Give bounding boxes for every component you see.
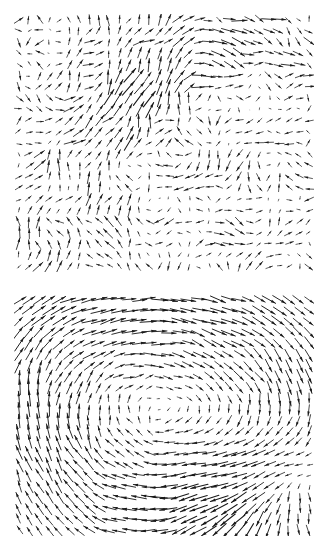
vector-arrow-head [70,107,75,110]
vector-arrow-head [210,365,215,368]
vector-arrow-head [278,76,282,79]
vector-arrow-head [251,464,256,467]
vector-arrow-head [180,355,185,358]
vector-arrow-head [40,131,43,133]
vector-arrow-head [49,381,52,386]
vector-arrow-head [119,374,124,377]
vector-arrow-head [48,150,50,154]
vector-arrow-head [90,40,95,42]
vector-arrow-head [182,463,187,466]
vector-arrow-head [304,177,308,179]
vector-arrow-head [29,206,32,210]
vector-arrow-head [264,485,269,489]
vector-arrow-head [149,407,150,409]
vector-arrow-head [277,498,280,502]
vector-arrow-head [284,453,288,456]
vector-arrow-head [250,311,255,314]
vector-arrow-head [98,27,101,31]
vector-arrow-head [26,515,29,519]
vector-arrow-head [306,442,309,446]
vector-arrow-head [278,531,281,536]
vector-arrow-head [259,62,263,64]
vector-arrow-head [209,131,211,134]
vector-arrow-head [199,255,202,257]
vector-arrow-head [184,442,188,444]
vector-arrow-head [249,299,254,302]
vector-arrow-head [299,232,302,234]
vector-arrow-head [288,31,290,35]
vector-arrow-head [239,199,241,200]
vector-arrow-head [98,63,102,66]
vector-arrow-head [155,220,159,223]
vector-arrow-head [169,58,172,63]
vector-arrow-head [221,499,226,503]
vector-arrow-head [196,187,200,189]
vector-arrow-head [129,91,133,96]
vector-arrow-head [56,491,60,496]
vector-arrow-head [18,208,19,210]
vector-arrow-head [16,504,19,509]
vector-arrow-head [133,463,138,466]
vector-arrow-head [205,430,209,433]
vector-arrow-head [148,14,150,18]
vector-arrow-head [279,368,282,373]
vector-arrow-head [211,509,216,513]
vector-arrow-head [180,508,185,511]
vector-arrow-head [151,486,156,489]
vector-arrow-head [130,363,134,365]
vector-arrow-head [241,42,246,46]
vector-arrow-head [93,482,98,486]
vector-arrow-head [240,243,244,245]
vector-arrow-head [258,389,261,394]
vector-arrow-head [46,436,49,441]
vector-arrow-head [159,48,162,53]
vector-arrow-head [19,176,22,178]
vector-arrow-head [220,344,225,347]
vector-arrow-head [26,41,29,45]
vector-arrow-head [239,86,243,88]
vector-arrow-head [149,142,152,144]
vector-arrow-head [194,431,198,434]
vector-arrow-head [79,351,84,355]
vector-arrow-head [288,409,290,414]
vector-arrow-head [179,498,185,501]
vector-arrow-head [298,84,302,87]
vector-arrow-head [79,97,83,100]
vector-arrow-head [184,430,188,432]
vector-arrow-head [145,451,150,454]
vector-arrow-head [190,520,195,523]
vector-arrow-head [86,265,89,267]
vector-arrow-head [62,316,67,320]
vector-arrow-head [88,194,91,199]
vector-arrow-head [269,367,272,372]
vector-arrow-head [216,121,219,125]
vector-arrow-head [211,322,216,325]
vector-arrow-head [200,364,205,367]
vector-arrow-head [61,296,66,300]
vector-arrow-head [128,60,131,65]
vector-arrow-head [299,209,301,210]
vector-arrow-head [111,309,116,312]
vector-arrow-head [190,16,195,19]
vector-arrow-head [281,300,286,304]
vector-arrow-head [58,241,60,245]
vector-arrow-head [268,175,270,178]
vector-arrow-head [206,186,210,188]
vector-arrow-head [134,440,138,443]
vector-arrow-head [298,53,302,56]
vector-arrow-head [108,406,110,410]
vector-arrow-head [295,174,299,177]
vector-arrow-head [140,102,144,107]
vector-arrow-head [201,355,206,358]
vector-arrow-head [89,393,92,397]
vector-arrow-head [212,310,217,313]
vector-arrow-head [81,140,86,143]
vector-arrow-head [200,18,205,20]
vector-arrow-head [167,266,169,270]
vector-arrow-head [279,65,283,67]
quiver-plot-bottom [14,294,314,536]
vector-arrow-head [189,386,193,388]
vector-arrow-head [90,341,95,344]
vector-arrow-head [200,509,205,512]
vector-arrow-head [270,255,273,257]
